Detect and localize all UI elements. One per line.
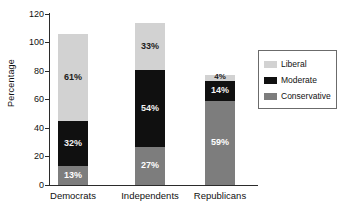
bar-segment-label: 54% xyxy=(141,104,159,113)
bar-segment-label: 59% xyxy=(211,138,229,147)
legend: Liberal Moderate Conservative xyxy=(258,50,337,109)
plot-area: 61% 32% 13% 33% 54% 27% 4% xyxy=(49,14,257,185)
legend-label: Liberal xyxy=(281,60,307,69)
legend-item-liberal[interactable]: Liberal xyxy=(264,57,336,72)
y-tick-label: 20 xyxy=(12,152,44,161)
x-axis-label-democrats: Democrats xyxy=(29,190,117,201)
bar-segment-moderate[interactable]: 54% xyxy=(135,70,165,147)
bar-segment-moderate[interactable]: 14% xyxy=(205,81,235,101)
bar-segment-label: 27% xyxy=(141,161,159,170)
bar-segment-liberal[interactable]: 33% xyxy=(135,23,165,70)
x-axis-line xyxy=(49,185,258,186)
legend-item-conservative[interactable]: Conservative xyxy=(264,89,336,104)
bar-segment-moderate[interactable]: 32% xyxy=(58,121,88,167)
y-tick-label: 60 xyxy=(12,95,44,104)
bar-independents[interactable]: 33% 54% 27% xyxy=(135,23,165,186)
x-axis-label-republicans: Republicans xyxy=(176,190,264,201)
y-tick-label: 120 xyxy=(12,10,44,19)
bar-democrats[interactable]: 61% 32% 13% xyxy=(58,34,88,185)
legend-label: Conservative xyxy=(281,92,331,101)
y-axis-title: Percentage xyxy=(6,43,16,123)
bar-republicans[interactable]: 4% 14% 59% xyxy=(205,75,235,185)
bar-segment-conservative[interactable]: 59% xyxy=(205,101,235,185)
y-tick-label: 40 xyxy=(12,124,44,133)
bar-segment-label: 13% xyxy=(64,171,82,180)
legend-label: Moderate xyxy=(281,76,317,85)
bar-segment-label: 14% xyxy=(211,86,229,95)
bar-segment-label: 33% xyxy=(141,42,159,51)
legend-swatch-icon xyxy=(264,77,277,84)
stacked-bar-chart: Percentage 0 20 40 60 80 100 120 61% 32% xyxy=(0,0,345,209)
bar-segment-liberal[interactable]: 61% xyxy=(58,34,88,121)
bar-segment-label: 61% xyxy=(64,73,82,82)
y-tick-label: 100 xyxy=(12,38,44,47)
legend-item-moderate[interactable]: Moderate xyxy=(264,73,336,88)
y-tick-label: 0 xyxy=(12,181,44,190)
y-tick-label: 80 xyxy=(12,67,44,76)
bar-segment-label: 32% xyxy=(64,139,82,148)
bar-segment-conservative[interactable]: 27% xyxy=(135,147,165,186)
y-tick-mark xyxy=(45,185,49,186)
legend-swatch-icon xyxy=(264,93,277,100)
bar-segment-conservative[interactable]: 13% xyxy=(58,166,88,185)
legend-swatch-icon xyxy=(264,61,277,68)
